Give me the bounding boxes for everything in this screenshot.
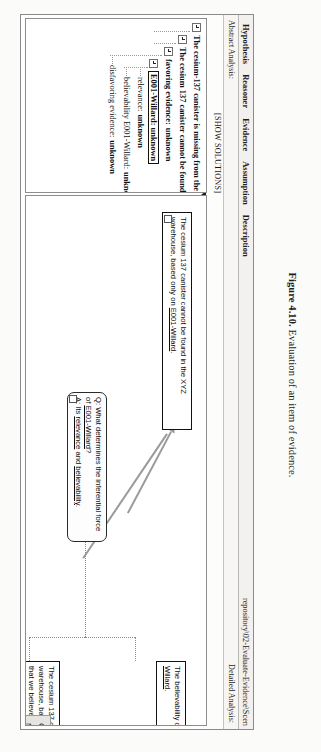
tree-node-canister-not-found[interactable]: The cesium 137 canister cannot be found … (178, 35, 187, 193)
answer-link-believability[interactable]: believability (74, 466, 83, 505)
graph-dotted-link (85, 541, 86, 637)
figure-number: Figure 4.10. (288, 272, 299, 326)
tree-node-label: The cesium 137 canister cannot be found … (178, 47, 187, 193)
answer-link-relevance[interactable]: relevance (74, 416, 83, 449)
detailed-analysis-graph[interactable]: The cesium 137 canister cannot be found … (25, 195, 207, 726)
tree-connector (124, 67, 148, 68)
graph-node-link-e001[interactable]: E001-Willard (169, 308, 178, 351)
figure-page: Hypothesis Reasoner Evidence Assumption … (0, 0, 321, 752)
tree-node-favoring-evidence[interactable]: favoring evidence: unknown (164, 47, 173, 161)
menu-bar: Hypothesis Reasoner Evidence Assumption … (238, 15, 253, 729)
node-tag-icon (69, 395, 77, 403)
tree-node-relevance[interactable]: relevance: unknown (136, 77, 145, 148)
abstract-analysis-tree[interactable]: The cesium-137 canister is missing from … (25, 18, 207, 193)
tree-connector (140, 67, 141, 76)
answer-suffix: . (74, 505, 83, 507)
answer-mid: and (74, 449, 83, 466)
tree-node-value: unknown (149, 128, 158, 162)
tree-node-label: believability E001-Willard: (122, 77, 131, 169)
tree-connector (110, 55, 162, 56)
graph-node-believability[interactable]: The believability of E001-Willard. (156, 661, 186, 726)
figure-caption-text: Evaluation of an item of evidence. (288, 330, 299, 478)
tree-connector (154, 43, 176, 44)
rotated-screenshot-wrapper: Hypothesis Reasoner Evidence Assumption … (20, 14, 254, 730)
menu-item-reasoner[interactable]: Reasoner (241, 69, 251, 113)
tree-node-disfavoring-evidence[interactable]: disfavoring evidence: unknown (108, 65, 117, 174)
menu-item-assumption[interactable]: Assumption (241, 156, 251, 209)
believability-suffix: . (163, 689, 172, 691)
menu-item-description[interactable]: Description (241, 210, 251, 262)
context-menu-item-new-assumption[interactable]: New Assumption (25, 716, 35, 726)
context-menu[interactable]: Generate Suggestions New Assumption Reco… (25, 715, 51, 726)
expander-icon[interactable] (178, 35, 187, 44)
tree-node-label: relevance: (136, 77, 145, 111)
expander-icon[interactable] (164, 47, 173, 56)
graph-dotted-link (30, 637, 86, 638)
context-menu-item-generate-suggestions[interactable]: Generate Suggestions (35, 716, 48, 726)
tree-node-label: disfavoring evidence: (108, 65, 117, 137)
graph-dotted-link (135, 637, 136, 661)
tree-connector (154, 31, 190, 32)
figure-caption: Figure 4.10. Evaluation of an item of ev… (265, 100, 321, 650)
answer-line: A: Its relevance and believability. (73, 397, 83, 537)
graph-dotted-link (86, 637, 136, 638)
menu-item-hypothesis[interactable]: Hypothesis (241, 19, 251, 69)
expander-icon[interactable] (149, 59, 158, 68)
graph-node-evidence-conclusion[interactable]: The cesium 137 canister cannot be found … (162, 212, 192, 430)
show-solutions-link[interactable]: [SHOW SOLUTIONS] (213, 113, 222, 193)
tree-connector (112, 55, 113, 64)
question-suffix: ? (84, 449, 93, 453)
show-solutions-bar: [SHOW SOLUTIONS] (209, 15, 223, 729)
believability-prefix: The believability of (173, 666, 182, 726)
graph-dotted-link (29, 637, 30, 661)
graph-node-text-after: . (169, 351, 178, 353)
tree-node-value: unknown (136, 114, 145, 148)
tree-node-label: favoring evidence: (164, 59, 173, 125)
tree-node-value: unknown (164, 128, 173, 162)
graph-node-question[interactable]: Q: What determines the inferential force… (67, 392, 107, 542)
application-window: Hypothesis Reasoner Evidence Assumption … (20, 14, 254, 730)
analysis-header-bar: Abstract Analysis: Detailed Analysis: (223, 15, 238, 729)
abstract-analysis-label: Abstract Analysis: (227, 20, 236, 79)
selected-node-highlight[interactable]: E001-Willard: unknown (148, 71, 159, 164)
tree-node-root[interactable]: The cesium-137 canister is missing from … (192, 23, 201, 193)
tree-node-believability[interactable]: believability E001-Willard: unknown (122, 77, 131, 193)
expander-icon[interactable] (192, 23, 201, 32)
node-tag-icon (164, 215, 172, 223)
question-line: Q: What determines the inferential force… (83, 397, 103, 537)
detailed-analysis-label: Detailed Analysis: (227, 664, 236, 723)
graph-arrow (127, 432, 172, 514)
repository-path-label: repository\02-Evaluate-Evidence\Scen (242, 598, 251, 729)
tree-node-value: unknown (108, 140, 117, 174)
tree-node-e001-willard[interactable]: E001-Willard: unknown (148, 59, 159, 164)
tree-connector (126, 67, 127, 76)
tree-node-label: E001-Willard: (149, 74, 158, 126)
tree-node-value: unknown (122, 172, 131, 193)
tree-node-label: The cesium-137 canister is missing from … (192, 35, 201, 193)
graph-node-text-before: The cesium 137 canister cannot be found … (169, 217, 188, 394)
question-link-e001[interactable]: E001-Willard (84, 405, 93, 448)
menu-item-evidence[interactable]: Evidence (241, 113, 251, 156)
